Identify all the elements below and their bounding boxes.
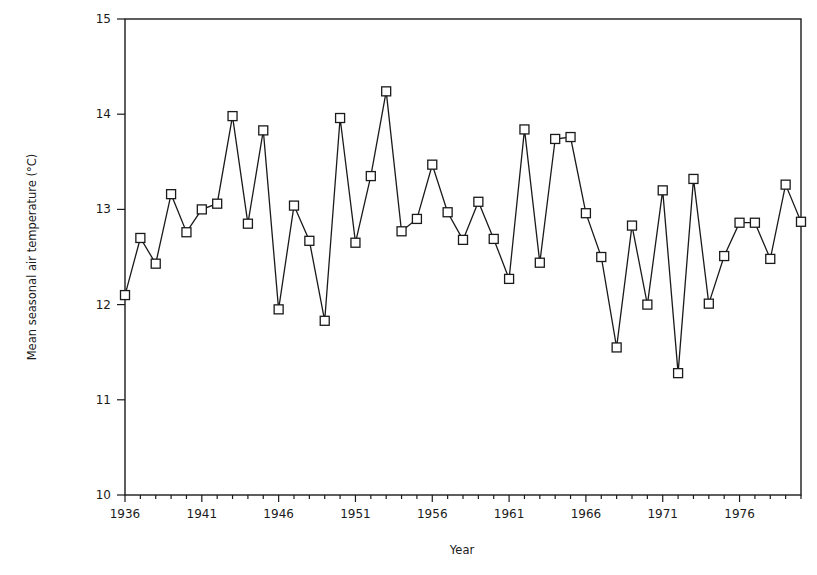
data-point-marker <box>505 274 514 283</box>
plot-frame <box>125 19 801 495</box>
data-point-marker <box>797 217 806 226</box>
data-point-marker <box>474 197 483 206</box>
data-point-marker <box>259 126 268 135</box>
data-point-marker <box>151 259 160 268</box>
data-point-marker <box>735 218 744 227</box>
data-point-marker <box>704 299 713 308</box>
data-point-marker <box>489 234 498 243</box>
data-point-marker <box>581 209 590 218</box>
x-tick-label: 1951 <box>340 507 371 521</box>
data-point-marker <box>121 291 130 300</box>
data-point-marker <box>366 172 375 181</box>
data-point-marker <box>197 205 206 214</box>
y-axis: 101112131415 <box>96 12 125 502</box>
data-point-marker <box>643 300 652 309</box>
data-point-marker <box>520 125 529 134</box>
data-point-marker <box>336 114 345 123</box>
data-point-marker <box>750 218 759 227</box>
x-tick-label: 1946 <box>263 507 294 521</box>
data-point-marker <box>167 190 176 199</box>
data-point-marker <box>459 235 468 244</box>
data-point-marker <box>535 258 544 267</box>
data-point-marker <box>305 236 314 245</box>
data-point-marker <box>290 201 299 210</box>
data-point-marker <box>612 343 621 352</box>
x-tick-label: 1976 <box>724 507 755 521</box>
y-tick-label: 12 <box>96 298 111 312</box>
y-tick-label: 13 <box>96 202 111 216</box>
data-point-marker <box>320 316 329 325</box>
x-tick-label: 1961 <box>494 507 525 521</box>
x-axis: 193619411946195119561961196619711976 <box>110 495 801 521</box>
data-point-marker <box>689 174 698 183</box>
x-tick-label: 1971 <box>647 507 678 521</box>
x-tick-label: 1956 <box>417 507 448 521</box>
data-point-marker <box>781 180 790 189</box>
data-point-marker <box>228 112 237 121</box>
data-point-marker <box>428 160 437 169</box>
data-point-marker <box>412 214 421 223</box>
series-line <box>125 91 801 373</box>
data-point-marker <box>674 369 683 378</box>
data-point-marker <box>658 186 667 195</box>
data-point-marker <box>597 253 606 262</box>
data-point-marker <box>720 252 729 261</box>
data-point-marker <box>213 199 222 208</box>
x-axis-title: Year <box>449 543 475 557</box>
data-point-marker <box>243 219 252 228</box>
y-tick-label: 11 <box>96 393 111 407</box>
data-point-marker <box>551 134 560 143</box>
x-tick-label: 1966 <box>571 507 602 521</box>
line-chart: 193619411946195119561961196619711976 101… <box>0 0 817 575</box>
data-point-marker <box>443 208 452 217</box>
x-tick-label: 1936 <box>110 507 141 521</box>
y-axis-title: Mean seasonal air temperature (°C) <box>25 154 39 361</box>
data-point-marker <box>351 238 360 247</box>
data-point-marker <box>628 221 637 230</box>
y-tick-label: 15 <box>96 12 111 26</box>
data-point-marker <box>136 233 145 242</box>
data-point-marker <box>566 133 575 142</box>
data-point-marker <box>397 227 406 236</box>
x-tick-label: 1941 <box>187 507 218 521</box>
data-point-marker <box>382 87 391 96</box>
data-point-marker <box>766 254 775 263</box>
data-series <box>121 87 806 378</box>
y-tick-label: 10 <box>96 488 111 502</box>
data-point-marker <box>274 305 283 314</box>
y-tick-label: 14 <box>96 107 111 121</box>
data-point-marker <box>182 228 191 237</box>
